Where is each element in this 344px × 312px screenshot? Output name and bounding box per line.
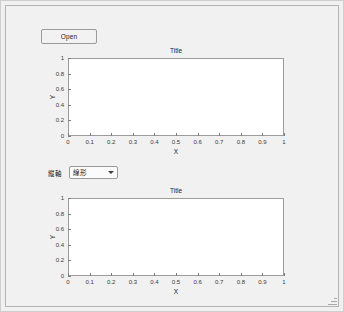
axis-scale-dropdown[interactable]: 線形 [69,166,118,179]
chart-top-x-tick-mark [262,133,263,136]
chevron-down-icon [108,171,114,174]
chart-bottom-title: Title [68,187,284,194]
chart-bottom-x-tick-label: 1 [282,279,285,285]
chart-top-y-tick-label: 0.8 [56,71,64,77]
chart-top-x-tick-label: 0.7 [215,139,223,145]
chart-bottom-x-tick-mark [219,273,220,276]
chart-bottom-y-tick-label: 1 [61,195,64,201]
chart-bottom-y-tick-label: 0.2 [56,257,64,263]
chart-bottom-x-tick-label: 0.9 [258,279,266,285]
chart-bottom-x-tick-mark [111,273,112,276]
chart-bottom-y-tick-mark [68,229,71,230]
chart-top-x-tick-mark [154,133,155,136]
chart-top-x-axis-label: X [68,148,284,155]
chart-bottom-x-tick-label: 0.3 [129,279,137,285]
chart-bottom-x-tick-mark [133,273,134,276]
chart-bottom-x-tick-label: 0.6 [193,279,201,285]
chart-top-x-tick-label: 1 [282,139,285,145]
chart-top-y-tick-label: 0 [61,133,64,139]
chart-top-x-tick-mark [241,133,242,136]
chart-top-x-tick-label: 0 [66,139,69,145]
chart-bottom-x-tick-label: 0 [66,279,69,285]
chart-top-y-tick-mark [68,105,71,106]
chart-bottom-x-tick-label: 0.8 [237,279,245,285]
chart-bottom-y-tick-mark [68,276,71,277]
chart-bottom-x-tick-mark [90,273,91,276]
chart-top-x-tick-label: 0.1 [85,139,93,145]
chart-bottom-x-tick-label: 0.4 [150,279,158,285]
chart-top-y-tick-label: 0.4 [56,102,64,108]
chart-bottom-x-tick-label: 0.1 [85,279,93,285]
chart-top-x-tick-label: 0.4 [150,139,158,145]
chart-bottom-x-tick-label: 0.2 [107,279,115,285]
chart-bottom-y-tick-label: 0.6 [56,226,64,232]
chart-top-x-tick-label: 0.3 [129,139,137,145]
chart-top-x-tick-mark [219,133,220,136]
chart-bottom-x-axis-label: X [68,288,284,295]
chart-top-x-tick-label: 0.6 [193,139,201,145]
chart-bottom-x-tick-mark [198,273,199,276]
chart-top-y-tick-mark [68,89,71,90]
resize-grip-icon[interactable] [328,296,337,305]
chart-bottom-x-tick-mark [241,273,242,276]
chart-top-x-tick-mark [133,133,134,136]
chart-bottom-y-tick-mark [68,198,71,199]
chart-top-x-tick-label: 0.8 [237,139,245,145]
chart-top-x-tick-mark [176,133,177,136]
chart-bottom: Title Y X 00.20.40.60.8100.10.20.30.40.5… [68,198,284,276]
axis-scale-control-row: 縦軸 線形 [48,166,118,179]
axis-scale-label: 縦軸 [48,168,62,178]
chart-bottom-plot-area [68,198,284,276]
chart-top-x-tick-mark [90,133,91,136]
chart-top-y-tick-mark [68,120,71,121]
open-button[interactable]: Open [41,29,97,44]
chart-bottom-y-tick-mark [68,245,71,246]
chart-top-y-tick-label: 1 [61,55,64,61]
chart-top-x-tick-label: 0.2 [107,139,115,145]
chart-bottom-y-tick-label: 0 [61,273,64,279]
chart-top-y-tick-mark [68,74,71,75]
chart-top-x-tick-mark [68,133,69,136]
chart-bottom-x-tick-label: 0.7 [215,279,223,285]
chart-top-y-tick-label: 0.2 [56,117,64,123]
chart-top-y-tick-mark [68,58,71,59]
chart-top-plot-area [68,58,284,136]
axis-scale-selected-value: 線形 [73,167,87,178]
chart-bottom-y-tick-mark [68,260,71,261]
chart-top-y-tick-mark [68,136,71,137]
chart-bottom-x-tick-mark [154,273,155,276]
chart-top-title: Title [68,47,284,54]
chart-top-x-tick-mark [284,133,285,136]
chart-top: Title Y X 00.20.40.60.8100.10.20.30.40.5… [68,58,284,136]
chart-bottom-y-axis-label: Y [48,235,55,239]
chart-bottom-x-tick-mark [68,273,69,276]
chart-top-x-tick-label: 0.5 [172,139,180,145]
chart-bottom-x-tick-mark [262,273,263,276]
chart-bottom-y-tick-label: 0.4 [56,242,64,248]
chart-top-y-axis-label: Y [48,95,55,99]
chart-bottom-y-tick-label: 0.8 [56,211,64,217]
chart-top-x-tick-mark [111,133,112,136]
chart-bottom-x-tick-label: 0.5 [172,279,180,285]
chart-bottom-x-tick-mark [284,273,285,276]
app-window: Open Title Y X 00.20.40.60.8100.10.20.30… [0,0,344,312]
chart-bottom-y-tick-mark [68,214,71,215]
chart-top-y-tick-label: 0.6 [56,86,64,92]
chart-top-x-tick-label: 0.9 [258,139,266,145]
chart-top-x-tick-mark [198,133,199,136]
chart-bottom-x-tick-mark [176,273,177,276]
